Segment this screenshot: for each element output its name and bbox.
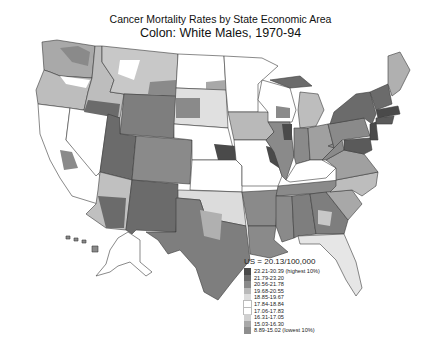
legend-swatch — [244, 308, 251, 315]
state-new-mexico — [126, 180, 178, 234]
legend-item: 21.79-23.20 — [244, 275, 320, 282]
legend-item: 17.84-18.84 — [244, 301, 320, 308]
state-alaska — [96, 232, 152, 276]
map-title: Cancer Mortality Rates by State Economic… — [0, 13, 441, 41]
legend-item: 19.68-20.55 — [244, 288, 320, 295]
legend-label: 19.68-20.55 — [254, 288, 284, 295]
state-kansas — [190, 160, 242, 192]
legend-swatch — [244, 327, 251, 334]
legend-item: 15.03-16.30 — [244, 321, 320, 328]
legend-swatch — [244, 281, 251, 288]
legend-item: 18.85-19.67 — [244, 294, 320, 301]
state-hawaii — [92, 246, 98, 252]
state-indiana — [294, 128, 310, 164]
legend-swatch — [244, 301, 251, 308]
state-wyoming — [120, 94, 176, 138]
title-line-1: Cancer Mortality Rates by State Economic… — [0, 13, 441, 26]
legend-label: 17.84-18.84 — [254, 301, 284, 308]
legend-item: 20.56-21.78 — [244, 281, 320, 288]
state-mississippi — [276, 196, 294, 242]
state-kentucky — [286, 160, 336, 182]
legend-swatch — [244, 275, 251, 282]
legend: US = 20.13/100,000 23.21-30.39 (highest … — [244, 257, 320, 334]
legend-label: 20.56-21.78 — [254, 281, 284, 288]
legend-swatch — [244, 294, 251, 301]
legend-label: 8.89-15.02 (lowest 10%) — [254, 327, 315, 334]
legend-label: 18.85-19.67 — [254, 294, 284, 301]
legend-label: 17.06-17.83 — [254, 308, 284, 315]
legend-item: 17.06-17.83 — [244, 308, 320, 315]
legend-swatch — [244, 321, 251, 328]
legend-item: 8.89-15.02 (lowest 10%) — [244, 327, 320, 334]
legend-swatch — [244, 314, 251, 321]
legend-title: US = 20.13/100,000 — [244, 257, 320, 266]
legend-swatch — [244, 268, 251, 275]
title-line-2: Colon: White Males, 1970-94 — [0, 26, 441, 41]
legend-label: 15.03-16.30 — [254, 321, 284, 328]
legend-item: 23.21-30.39 (highest 10%) — [244, 268, 320, 275]
state-maine — [388, 52, 410, 96]
state-colorado — [132, 136, 192, 184]
state-michigan — [298, 92, 324, 128]
us-choropleth-map — [0, 0, 441, 355]
legend-item: 16.31-17.05 — [244, 314, 320, 321]
legend-label: 16.31-17.05 — [254, 314, 284, 321]
legend-label: 21.79-23.20 — [254, 275, 284, 282]
state-new-york — [330, 92, 376, 124]
legend-label: 23.21-30.39 (highest 10%) — [254, 268, 320, 275]
state-new-jersey — [370, 122, 378, 140]
state-iowa — [228, 112, 274, 140]
legend-swatch — [244, 288, 251, 295]
state-arkansas — [242, 190, 278, 226]
